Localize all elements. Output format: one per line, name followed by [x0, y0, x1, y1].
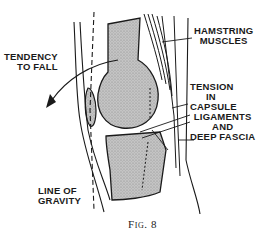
femur-bone — [98, 18, 159, 128]
label-ligaments-deep-fascia: LIGAMENTS AND DEEP FASCIA — [190, 112, 255, 142]
label-tendency-to-fall: TENDENCY TO FALL — [4, 52, 58, 72]
label-tension-in-capsule: TENSION IN CAPSULE — [190, 82, 237, 112]
knee-diagram-figure: TENDENCY TO FALL HAMSTRING MUSCLES TENSI… — [0, 0, 280, 237]
figure-caption: Fig. 8 — [128, 218, 157, 230]
label-line-of-gravity: LINE OF GRAVITY — [38, 186, 81, 206]
label-hamstring-muscles: HAMSTRING MUSCLES — [194, 26, 253, 46]
tibia-bone — [106, 132, 166, 200]
